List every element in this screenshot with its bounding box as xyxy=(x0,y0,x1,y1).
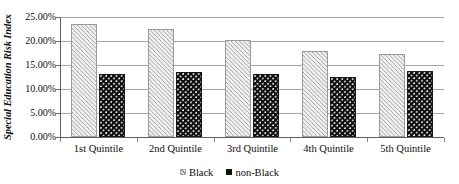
x-axis-category-labels: 1st Quintile2nd Quintile3rd Quintile4th … xyxy=(60,142,444,158)
y-tick-label: 0.00% xyxy=(8,132,56,142)
bar-non-black xyxy=(176,72,202,137)
y-axis-line xyxy=(60,17,61,138)
y-axis-tick-labels: 25.00% 20.00% 15.00% 10.00% 5.00% 0.00% xyxy=(8,0,56,184)
legend-item-black: Black xyxy=(180,166,214,179)
y-tick-label: 25.00% xyxy=(8,12,56,22)
x-axis-line xyxy=(60,137,444,138)
hatched-square-icon xyxy=(180,169,186,175)
x-axis-label: 4th Quintile xyxy=(290,142,367,155)
x-axis-label: 2nd Quintile xyxy=(137,142,214,155)
bar-black xyxy=(71,24,97,137)
solid-square-icon xyxy=(226,169,232,175)
bar-non-black xyxy=(99,74,125,137)
x-axis-tick xyxy=(444,138,445,142)
legend-label: Black xyxy=(189,166,214,179)
legend-item-non-black: non-Black xyxy=(226,166,279,179)
x-axis-label: 1st Quintile xyxy=(60,142,137,155)
special-education-risk-index-chart: Special Education Risk Index 25.00% 20.0… xyxy=(0,0,459,184)
gridline xyxy=(60,17,444,18)
x-axis-label: 3rd Quintile xyxy=(214,142,291,155)
legend-label: non-Black xyxy=(235,166,279,179)
gridline xyxy=(60,41,444,42)
bar-black xyxy=(148,29,174,137)
y-tick-label: 15.00% xyxy=(8,60,56,70)
bar-non-black xyxy=(253,74,279,137)
y-tick-label: 20.00% xyxy=(8,36,56,46)
y-tick-label: 5.00% xyxy=(8,108,56,118)
bar-black xyxy=(302,51,328,137)
y-tick-label: 10.00% xyxy=(8,84,56,94)
plot-area xyxy=(60,17,444,138)
bar-black xyxy=(379,54,405,137)
x-axis-label: 5th Quintile xyxy=(367,142,444,155)
bar-non-black xyxy=(330,77,356,137)
bar-non-black xyxy=(407,71,433,137)
bar-black xyxy=(225,40,251,137)
legend: Black non-Black xyxy=(0,164,459,180)
